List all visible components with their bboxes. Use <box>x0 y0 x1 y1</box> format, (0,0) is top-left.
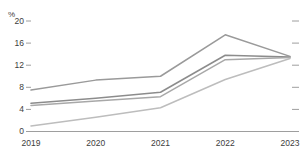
y-axis-tick-marks <box>26 21 31 132</box>
y-axis-label-20: 20 <box>2 17 24 26</box>
y-axis-label-16: 16 <box>2 39 24 48</box>
x-axis-label-2021: 2021 <box>141 139 181 148</box>
y-axis-label-4: 4 <box>2 105 24 114</box>
y-axis-right-tick-marks <box>292 21 299 132</box>
y-axis-label-0: 0 <box>2 127 24 136</box>
y-axis-label-12: 12 <box>2 61 24 70</box>
series-line-1 <box>31 35 290 90</box>
y-axis-label-8: 8 <box>2 83 24 92</box>
x-axis-label-2023: 2023 <box>270 139 305 148</box>
series-line-3 <box>31 57 290 105</box>
x-axis-label-2020: 2020 <box>76 139 116 148</box>
chart-plot-area <box>0 0 305 154</box>
x-axis-label-2022: 2022 <box>205 139 245 148</box>
x-axis-label-2019: 2019 <box>11 139 51 148</box>
series-layer <box>31 35 290 126</box>
line-chart: % 048121620 20192020202120222023 <box>0 0 305 154</box>
